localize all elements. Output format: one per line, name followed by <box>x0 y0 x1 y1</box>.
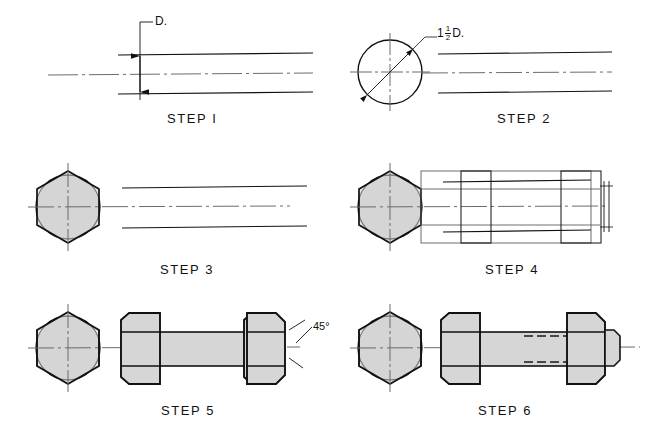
nut-body-step6 <box>567 313 605 384</box>
shaft-center-line <box>48 73 313 75</box>
bolt-construction-plate <box>0 0 650 437</box>
step4-shaft-bottom-line <box>443 230 591 232</box>
step4-drawing <box>350 163 613 251</box>
step3-drawing <box>28 163 307 251</box>
bolt-tip-protrusion <box>605 330 620 366</box>
bolt-head-body-step6 <box>441 313 480 384</box>
bolt-head-body <box>121 313 160 384</box>
step-label-3: STEP 3 <box>160 262 214 277</box>
across-corners-label: 112D. <box>437 25 464 42</box>
fraction-numerator: 1 <box>445 25 451 33</box>
nut-body <box>247 313 285 384</box>
step3-shaft-top-line <box>122 186 307 188</box>
step2-shaft-bottom-line <box>438 91 612 93</box>
step-label-6: STEP 6 <box>478 403 532 418</box>
angle-tick <box>296 327 312 343</box>
step-label-4: STEP 4 <box>485 262 539 277</box>
step1-drawing <box>48 22 313 100</box>
angle-leader-upper <box>289 320 305 330</box>
step-label-5: STEP 5 <box>161 403 215 418</box>
step-label-1: STEP I <box>167 111 218 126</box>
step2-shaft-center-line <box>422 72 612 73</box>
step5-drawing <box>28 304 312 392</box>
shaft-bottom-line <box>118 92 313 94</box>
step4-shaft-top-line <box>443 180 591 182</box>
step6-drawing <box>350 304 640 392</box>
construction-nut-block <box>561 171 601 243</box>
across-corners-whole: 1 <box>437 26 444 40</box>
step2-shaft-top-line <box>438 52 612 54</box>
diameter-label: D. <box>155 14 167 28</box>
across-corners-leader-line <box>413 37 425 49</box>
shaft-top-line <box>118 53 313 55</box>
step-label-2: STEP 2 <box>497 111 551 126</box>
fraction-denominator: 2 <box>445 33 451 42</box>
step3-shaft-bottom-line <box>122 226 307 228</box>
across-corners-fraction: 12 <box>445 25 451 42</box>
step2-drawing <box>350 33 612 111</box>
angle-leader-lower <box>289 358 303 368</box>
across-corners-unit: D. <box>452 26 464 40</box>
chamfer-angle-label: 45° <box>313 320 330 332</box>
